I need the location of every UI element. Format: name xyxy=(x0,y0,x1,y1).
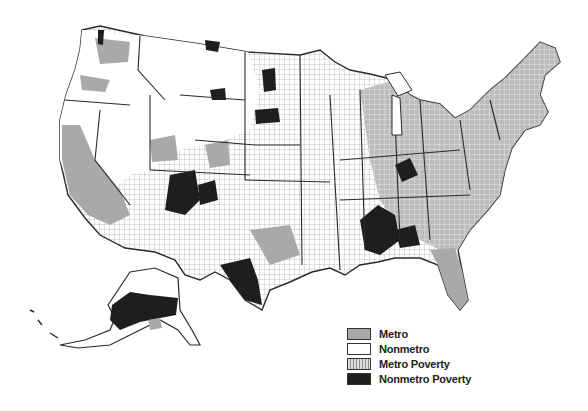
metro-swatch xyxy=(347,328,371,340)
us-county-map xyxy=(0,0,588,411)
legend-label: Nonmetro Poverty xyxy=(379,373,471,385)
map-legend: Metro Nonmetro Metro Poverty Nonmetro Po… xyxy=(347,326,471,386)
legend-label: Metro xyxy=(379,328,408,340)
metro-poverty-swatch xyxy=(347,358,371,370)
contiguous-us xyxy=(60,26,560,310)
alaska xyxy=(30,268,200,348)
legend-item-metro: Metro xyxy=(347,326,471,341)
legend-label: Metro Poverty xyxy=(379,358,450,370)
legend-item-metro-poverty: Metro Poverty xyxy=(347,356,471,371)
legend-item-nonmetro-poverty: Nonmetro Poverty xyxy=(347,371,471,386)
nonmetro-swatch xyxy=(347,343,371,355)
nonmetro-poverty-swatch xyxy=(347,373,371,385)
legend-item-nonmetro: Nonmetro xyxy=(347,341,471,356)
legend-label: Nonmetro xyxy=(379,343,429,355)
